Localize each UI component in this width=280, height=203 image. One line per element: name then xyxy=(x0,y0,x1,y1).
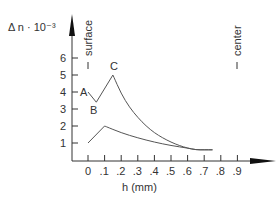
y-axis-arrow-icon xyxy=(69,14,75,36)
point-c-label: C xyxy=(110,60,118,72)
x-tick-label: 0 xyxy=(85,165,91,177)
y-tick-label: 1 xyxy=(60,137,66,149)
x-tick-label: .6 xyxy=(183,165,192,177)
y-tick-label: 4 xyxy=(60,86,66,98)
upper-curve xyxy=(88,75,213,150)
x-tick-label: .5 xyxy=(166,165,175,177)
x-ticks: 0.1.2.3.4.5.6.7.8.9 xyxy=(85,155,242,177)
x-tick-label: .3 xyxy=(133,165,142,177)
x-axis-label: h (mm) xyxy=(122,181,157,193)
x-axis-arrow-icon xyxy=(250,158,276,164)
surface-label: surface xyxy=(82,20,94,56)
x-tick-label: .2 xyxy=(116,165,125,177)
y-axis-label: Δ n · 10⁻³ xyxy=(8,21,56,33)
x-tick-label: .8 xyxy=(216,165,225,177)
y-tick-label: 2 xyxy=(60,120,66,132)
point-a-label: A xyxy=(80,86,88,98)
x-tick-label: .9 xyxy=(232,165,241,177)
x-tick-label: .4 xyxy=(149,165,158,177)
y-ticks: 123456 xyxy=(60,52,78,149)
x-tick-label: .1 xyxy=(100,165,109,177)
y-tick-label: 6 xyxy=(60,52,66,64)
point-b-label: B xyxy=(90,104,97,116)
center-label: center xyxy=(231,25,243,56)
y-tick-label: 3 xyxy=(60,103,66,115)
y-tick-label: 5 xyxy=(60,69,66,81)
x-tick-label: .7 xyxy=(199,165,208,177)
chart: Δ n · 10⁻³ 123456 0.1.2.3.4.5.6.7.8.9 h … xyxy=(0,0,280,203)
